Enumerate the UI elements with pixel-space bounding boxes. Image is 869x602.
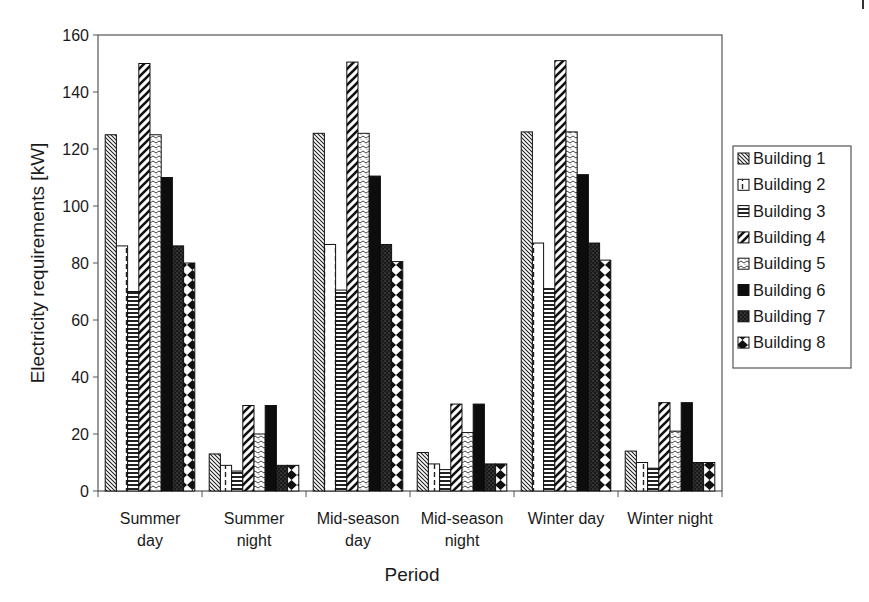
y-tick-label: 140 [62,84,89,101]
x-tick-label: Summerday [120,510,181,549]
bar [577,175,588,491]
bar [232,471,243,491]
legend-label: Building 8 [753,333,825,351]
x-axis-label: Period [385,564,440,585]
y-tick-label: 100 [62,198,89,215]
bar [288,465,299,491]
bar [636,463,647,492]
y-axis-label: Electricity requirements [kW] [27,143,48,384]
bar [161,178,172,492]
bar [659,403,670,491]
y-tick-label: 0 [80,483,89,500]
y-axis: 020406080100120140160 [62,27,98,500]
legend-swatch-icon [738,179,749,190]
bar [600,260,611,491]
legend-label: Building 5 [753,254,825,272]
x-tick-label: Summernight [224,510,285,549]
y-tick-label: 80 [71,255,89,272]
x-tick-label: Mid-seasonnight [421,510,504,549]
bar [544,289,555,491]
legend: Building 1Building 2Building 3Building 4… [733,146,851,368]
bar [428,464,439,491]
bar [172,246,183,491]
legend-swatch-icon [738,285,749,296]
legend-label: Building 7 [753,307,825,325]
legend-label: Building 6 [753,281,825,299]
legend-label: Building 3 [753,202,825,220]
bar [417,453,428,491]
bar [681,403,692,491]
y-tick-label: 40 [71,369,89,386]
bar [392,262,403,491]
y-tick-label: 160 [62,27,89,44]
bar [116,246,127,491]
bar [473,404,484,491]
bar [254,434,265,491]
bar [566,132,577,491]
bar [625,451,636,491]
bar [358,133,369,491]
bar [265,406,276,492]
bar [313,133,324,491]
x-tick-label: Winter day [528,510,604,527]
bar [324,244,335,491]
bar [555,61,566,491]
bar [243,406,254,492]
bar [220,465,231,491]
legend-swatch-icon [738,337,749,348]
bar [369,176,380,491]
legend-swatch-icon [738,232,749,243]
bar [139,64,150,492]
legend-swatch-icon [738,153,749,164]
bar [484,464,495,491]
legend-swatch-icon [738,258,749,269]
legend-label: Building 4 [753,228,825,246]
series-building-6 [161,175,692,491]
bar [462,433,473,491]
x-axis: SummerdaySummernightMid-seasondayMid-sea… [98,491,722,549]
y-tick-label: 60 [71,312,89,329]
bar [150,135,161,491]
bar [105,135,116,491]
bar [209,454,220,491]
bar [588,243,599,491]
x-tick-label: Mid-seasonday [317,510,400,549]
chart-canvas: 020406080100120140160 SummerdaySummernig… [0,0,869,602]
bar [496,464,507,491]
bar [440,470,451,491]
legend-swatch-icon [738,206,749,217]
legend-label: Building 2 [753,175,825,193]
scan-artifact-mark [862,0,864,9]
bar [276,465,287,491]
bar [532,243,543,491]
bar [184,263,195,491]
y-tick-label: 120 [62,141,89,158]
bar [648,468,659,491]
bar [521,132,532,491]
bar [692,463,703,492]
legend-swatch-icon [738,311,749,322]
bar [704,463,715,492]
bar-series-group [105,61,715,491]
bar [380,244,391,491]
bar [128,292,139,492]
bar-chart: 020406080100120140160 SummerdaySummernig… [0,0,869,602]
bar [347,62,358,491]
bar [336,290,347,491]
x-tick-label: Winter night [627,510,713,527]
legend-label: Building 1 [753,149,825,167]
y-tick-label: 20 [71,426,89,443]
bar [451,404,462,491]
bar [670,431,681,491]
